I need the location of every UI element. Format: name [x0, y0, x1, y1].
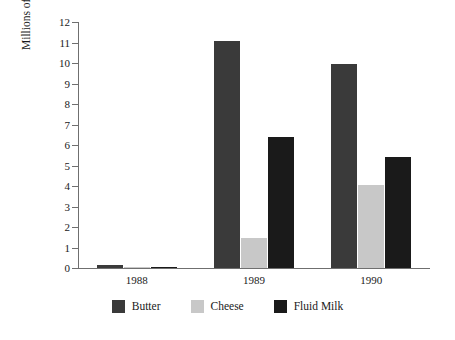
y-axis-tick-label: 12: [50, 17, 70, 28]
y-axis-tick-label: 2: [50, 222, 70, 233]
bar: [151, 267, 177, 269]
bar: [358, 185, 384, 268]
y-axis-tick-label: 7: [50, 120, 70, 131]
y-axis-tick: [72, 207, 78, 208]
legend-swatch-icon: [191, 300, 204, 313]
bar: [331, 64, 357, 268]
y-axis-tick: [72, 186, 78, 187]
bar: [385, 157, 411, 268]
bar: [241, 238, 267, 268]
y-axis-tick: [72, 104, 78, 105]
y-axis-title: Millions of Pounds: [20, 0, 32, 50]
legend-item: Fluid Milk: [274, 300, 344, 313]
bar: [214, 41, 240, 268]
legend-swatch-icon: [274, 300, 287, 313]
bar-chart: Millions of Pounds 0123456789101112 1988…: [0, 0, 455, 340]
legend-label: Cheese: [211, 301, 244, 313]
y-axis-tick-label: 9: [50, 79, 70, 90]
x-axis-tick-label: 1989: [224, 274, 284, 286]
bar: [124, 267, 150, 269]
y-axis-tick-label: 4: [50, 181, 70, 192]
bar: [268, 137, 294, 268]
y-axis-tick-label: 0: [50, 263, 70, 274]
legend-item: Butter: [112, 300, 161, 313]
chart-legend: ButterCheeseFluid Milk: [0, 300, 455, 313]
y-axis-tick-label: 8: [50, 99, 70, 110]
x-axis-line: [78, 268, 430, 269]
legend-label: Butter: [132, 301, 161, 313]
y-axis-tick-label: 11: [50, 38, 70, 49]
y-axis-tick: [72, 248, 78, 249]
y-axis-tick: [72, 84, 78, 85]
legend-swatch-icon: [112, 300, 125, 313]
y-axis-tick-label: 10: [50, 58, 70, 69]
x-axis-tick-label: 1990: [341, 274, 401, 286]
y-axis-tick: [72, 125, 78, 126]
legend-label: Fluid Milk: [294, 301, 344, 313]
y-axis-tick: [72, 63, 78, 64]
plot-area: 0123456789101112: [78, 22, 430, 268]
y-axis-tick: [72, 227, 78, 228]
y-axis-tick: [72, 145, 78, 146]
y-axis-tick-label: 3: [50, 202, 70, 213]
y-axis-tick: [72, 268, 78, 269]
x-axis-tick-label: 1988: [107, 274, 167, 286]
bar: [97, 265, 123, 268]
y-axis-tick: [72, 166, 78, 167]
legend-item: Cheese: [191, 300, 244, 313]
y-axis-tick-label: 5: [50, 161, 70, 172]
y-axis-tick-label: 6: [50, 140, 70, 151]
y-axis-tick: [72, 43, 78, 44]
y-axis-tick: [72, 22, 78, 23]
y-axis-tick-label: 1: [50, 243, 70, 254]
